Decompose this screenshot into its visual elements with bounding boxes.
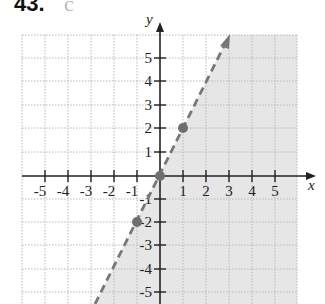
svg-text:5: 5 xyxy=(271,183,279,199)
svg-text:-2: -2 xyxy=(103,183,116,199)
svg-text:-3: -3 xyxy=(140,237,153,253)
y-axis-label: y xyxy=(144,11,153,27)
boundary-arrow-icon xyxy=(220,34,230,49)
svg-text:-5: -5 xyxy=(34,183,47,199)
point-1-2 xyxy=(178,123,188,133)
svg-text:1: 1 xyxy=(145,144,153,160)
svg-text:3: 3 xyxy=(225,183,233,199)
point-neg1-neg2 xyxy=(132,217,142,227)
svg-text:2: 2 xyxy=(202,183,210,199)
point-origin xyxy=(155,171,165,181)
shaded-region xyxy=(95,35,297,304)
svg-text:-3: -3 xyxy=(80,183,93,199)
y-tick-labels: 5 4 3 2 1 -1 -2 -3 -4 -5 xyxy=(140,50,153,300)
svg-text:-4: -4 xyxy=(140,261,153,277)
x-axis-label: x xyxy=(307,177,315,193)
coordinate-plane: -5 -4 -3 -2 -1 1 2 3 4 5 5 4 3 2 1 -1 -2… xyxy=(0,0,325,304)
svg-text:4: 4 xyxy=(248,183,256,199)
svg-text:-1: -1 xyxy=(126,183,139,199)
svg-text:-5: -5 xyxy=(140,284,153,300)
svg-text:1: 1 xyxy=(179,183,187,199)
svg-text:2: 2 xyxy=(145,120,153,136)
svg-text:5: 5 xyxy=(145,50,153,66)
svg-text:3: 3 xyxy=(145,97,153,113)
svg-text:4: 4 xyxy=(145,73,153,89)
y-axis-arrow-icon xyxy=(156,22,164,32)
svg-text:-4: -4 xyxy=(57,183,70,199)
